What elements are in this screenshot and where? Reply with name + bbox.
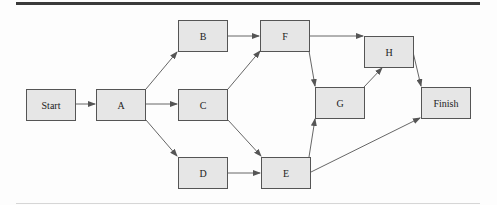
- node-c: C: [178, 89, 228, 121]
- edge-a-d: [146, 120, 177, 156]
- edge-f-g: [309, 51, 315, 86]
- node-h: H: [364, 36, 414, 68]
- edge-g-h: [364, 68, 382, 87]
- edge-c-e: [228, 120, 261, 156]
- edge-e-finish: [309, 118, 420, 173]
- node-d: D: [178, 157, 228, 189]
- network-diagram: Start A B C D F E G H Finish: [0, 0, 497, 205]
- node-e: E: [261, 157, 311, 189]
- node-b: B: [178, 20, 228, 52]
- node-g: G: [315, 87, 365, 119]
- edge-c-f: [228, 51, 260, 89]
- node-a: A: [96, 89, 146, 121]
- node-start: Start: [26, 89, 76, 121]
- node-f: F: [260, 20, 310, 52]
- edge-e-g: [309, 119, 315, 157]
- edge-a-b: [146, 52, 177, 89]
- edge-h-finish: [413, 52, 421, 86]
- node-finish: Finish: [421, 87, 471, 119]
